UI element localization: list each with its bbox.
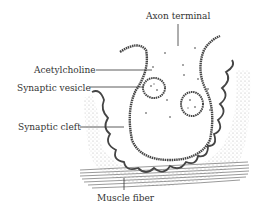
label-acetylcholine: Acetylcholine: [34, 65, 96, 75]
synaptic-vesicle-2: [181, 92, 203, 116]
synaptic-vesicle-1: [143, 78, 165, 98]
axon-terminal-membrane: [120, 36, 220, 160]
neuromuscular-junction-diagram: [0, 0, 266, 213]
label-muscle-fiber: Muscle fiber: [97, 193, 154, 203]
label-synaptic-cleft: Synaptic cleft: [18, 122, 81, 132]
label-synaptic-vesicle: Synaptic vesicle: [17, 83, 91, 93]
label-axon-terminal: Axon terminal: [146, 11, 210, 21]
